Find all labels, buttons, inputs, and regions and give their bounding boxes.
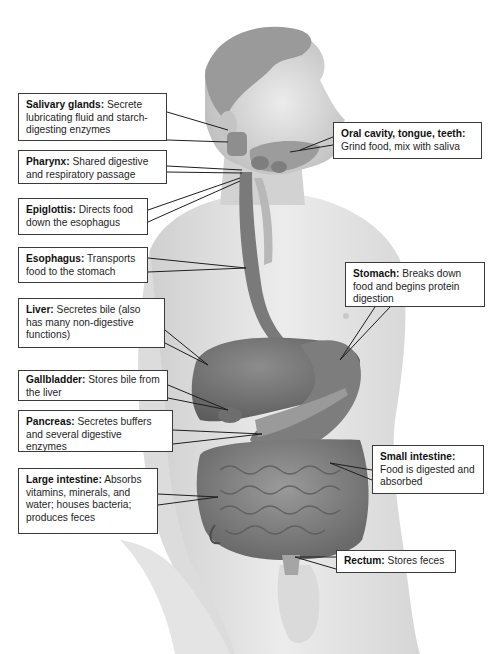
label-term: Large intestine: (26, 474, 102, 485)
label-description: Stores feces (388, 555, 445, 566)
label-large-intestine: Large intestine: Absorbs vitamins, miner… (18, 468, 158, 534)
label-term: Stomach: (353, 268, 399, 279)
label-oral-cavity: Oral cavity, tongue, teeth: Grind food, … (333, 122, 482, 159)
label-term: Rectum: (344, 555, 385, 566)
label-liver: Liver: Secretes bile (also has many non-… (18, 298, 165, 348)
label-stomach: Stomach: Breaks down food and begins pro… (345, 262, 485, 307)
label-rectum: Rectum: Stores feces (336, 550, 456, 573)
label-pharynx: Pharynx: Shared digestive and respirator… (18, 150, 167, 184)
label-term: Small intestine: (380, 451, 455, 462)
label-pancreas: Pancreas: Secretes buffers and several d… (18, 410, 173, 452)
label-term: Liver: (26, 304, 54, 315)
label-term: Gallbladder: (26, 374, 85, 385)
label-small-intestine: Small intestine: Food is digested and ab… (372, 445, 484, 494)
label-term: Epiglottis: (26, 204, 76, 215)
label-description: Food is digested and absorbed (380, 464, 475, 488)
label-epiglottis: Epiglottis: Directs food down the esopha… (18, 198, 148, 235)
label-term: Pharynx: (26, 156, 70, 167)
label-term: Esophagus: (26, 253, 84, 264)
label-salivary-glands: Salivary glands: Secrete lubricating flu… (18, 93, 167, 141)
label-gallbladder: Gallbladder: Stores bile from the liver (18, 370, 168, 401)
label-term: Pancreas: (26, 416, 75, 427)
label-description: Grind food, mix with saliva (341, 141, 460, 152)
label-term: Salivary glands: (26, 99, 104, 110)
label-esophagus: Esophagus: Transports food to the stomac… (18, 247, 148, 283)
label-term: Oral cavity, tongue, teeth: (341, 128, 465, 139)
